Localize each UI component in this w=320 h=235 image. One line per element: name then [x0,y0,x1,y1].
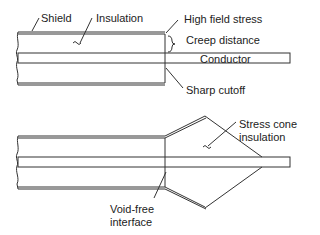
void-free-label-line2: interface [110,216,152,228]
conductor-label: Conductor [200,53,251,65]
stress-cone-label-line2: insulation [239,131,285,143]
stress-cone-label-line1: Stress cone [239,118,297,130]
shield-label: Shield [41,12,72,24]
insulation-label: Insulation [96,12,143,24]
void-free-label-line1: Void-free [110,203,154,215]
sharp-cutoff-label: Sharp cutoff [186,84,245,96]
high-field-stress-label: High field stress [184,13,262,25]
creep-distance-label: Creep distance [186,34,260,46]
